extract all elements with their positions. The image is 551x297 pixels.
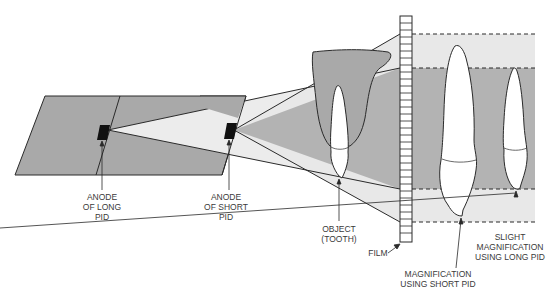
label-anode-long: ANODE OF LONG PID — [83, 192, 121, 222]
label-mag-long: SLIGHT MAGNIFICATION USING LONG PID — [475, 232, 545, 262]
svg-text:USING LONG PID: USING LONG PID — [475, 252, 545, 262]
svg-text:SLIGHT: SLIGHT — [495, 232, 526, 242]
svg-text:OF LONG: OF LONG — [83, 202, 121, 212]
svg-text:MAGNIFICATION: MAGNIFICATION — [405, 269, 472, 279]
label-object: OBJECT (TOOTH) — [321, 224, 356, 244]
svg-text:OF SHORT: OF SHORT — [204, 202, 248, 212]
svg-text:OBJECT: OBJECT — [322, 224, 356, 234]
svg-text:ANODE: ANODE — [87, 192, 118, 202]
svg-text:ANODE: ANODE — [211, 192, 242, 202]
svg-text:FILM: FILM — [368, 248, 387, 258]
film-strip — [400, 16, 412, 242]
label-film: FILM — [368, 248, 387, 258]
svg-text:PID: PID — [95, 212, 109, 222]
svg-text:MAGNIFICATION: MAGNIFICATION — [477, 242, 544, 252]
label-mag-short: MAGNIFICATION USING SHORT PID — [400, 269, 475, 289]
svg-text:PID: PID — [219, 212, 233, 222]
svg-text:USING SHORT PID: USING SHORT PID — [400, 279, 475, 289]
label-anode-short: ANODE OF SHORT PID — [204, 192, 248, 222]
svg-text:(TOOTH): (TOOTH) — [321, 234, 356, 244]
diagram-canvas: ANODE OF LONG PID ANODE OF SHORT PID OBJ… — [0, 0, 551, 297]
